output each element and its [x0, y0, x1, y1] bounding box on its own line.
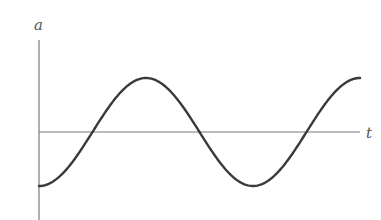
x-axis-label: t [366, 124, 373, 142]
acceleration-time-chart: a t [0, 0, 381, 220]
y-axis-label: a [34, 16, 43, 34]
